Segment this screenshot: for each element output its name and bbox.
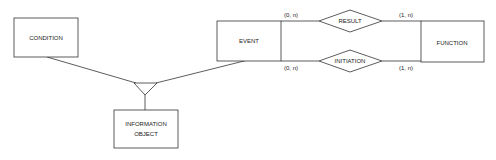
generalization-triangle-icon xyxy=(134,83,157,95)
entity-information-object[interactable]: INFORMATION OBJECT xyxy=(114,110,178,148)
relationship-result-label: RESULT xyxy=(338,18,362,24)
entity-condition[interactable]: CONDITION xyxy=(14,18,78,57)
cardinality-result-function: (1, n) xyxy=(399,12,413,18)
entity-function[interactable]: FUNCTION xyxy=(421,21,484,62)
event-connector xyxy=(156,60,248,83)
relationship-initiation-label: INITIATION xyxy=(335,58,366,64)
relationship-result[interactable]: RESULT xyxy=(319,10,382,32)
cardinality-event-initiation: (0, n) xyxy=(284,65,298,71)
entity-function-label: FUNCTION xyxy=(437,40,468,46)
er-diagram: CONDITION EVENT FUNCTION INFORMATION OBJ… xyxy=(0,0,496,160)
entity-condition-label: CONDITION xyxy=(29,35,63,41)
entity-event[interactable]: EVENT xyxy=(217,21,281,61)
condition-connector xyxy=(47,57,136,83)
entity-information-object-label-line2: OBJECT xyxy=(134,131,158,137)
cardinality-initiation-function: (1, n) xyxy=(399,65,413,71)
relationship-initiation[interactable]: INITIATION xyxy=(319,50,382,72)
entity-event-label: EVENT xyxy=(239,38,259,44)
cardinality-event-result: (0, n) xyxy=(284,12,298,18)
entity-information-object-label-line1: INFORMATION xyxy=(125,121,167,127)
